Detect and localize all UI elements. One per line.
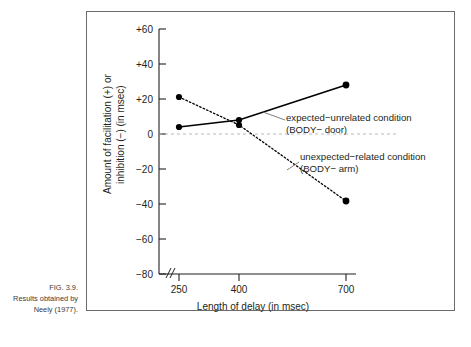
y-axis-tick-labels: +60 +40 +20 0 −20 −40 −60 −80 bbox=[136, 24, 153, 280]
y-axis-ticks bbox=[159, 29, 166, 274]
data-point-unexpected-related-400 bbox=[236, 122, 242, 128]
plot-area: +60 +40 +20 0 −20 −40 −60 −80 Amount of … bbox=[87, 12, 454, 310]
y-axis-title: Amount of facilitation (+) or inhibition… bbox=[102, 74, 126, 194]
line-chart: +60 +40 +20 0 −20 −40 −60 −80 Amount of … bbox=[87, 12, 456, 312]
y-axis-title-line-1: Amount of facilitation (+) or bbox=[102, 74, 113, 194]
annotation-unexpected-related: unexpected−related condition (BODY− arm) bbox=[287, 151, 426, 174]
figure-caption-line-3: Neely (1977). bbox=[0, 304, 78, 315]
y-axis-title-line-2: inhibition (−) (in msec) bbox=[115, 85, 126, 184]
figure-caption-line-1: FIG. 3.9. bbox=[0, 282, 78, 293]
x-tick-label-400: 400 bbox=[231, 284, 248, 295]
annotation-expected-unrelated: expected−unrelated condition (BODY− door… bbox=[263, 112, 412, 135]
y-tick-label-neg40: −40 bbox=[136, 199, 153, 210]
y-tick-label-0: 0 bbox=[147, 129, 153, 140]
data-point-expected-unrelated-250 bbox=[176, 124, 182, 130]
figure-frame: +60 +40 +20 0 −20 −40 −60 −80 Amount of … bbox=[86, 11, 455, 311]
series-unexpected-related bbox=[176, 94, 350, 205]
y-tick-label-neg80: −80 bbox=[136, 269, 153, 280]
annotation-leader-line-expected-unrelated bbox=[263, 112, 285, 120]
annotation-unexpected-related-line-1: unexpected−related condition bbox=[300, 151, 426, 162]
x-axis-tick-labels: 250 400 700 bbox=[171, 284, 355, 295]
y-tick-label-40: +40 bbox=[136, 59, 153, 70]
annotation-expected-unrelated-line-2: (BODY− door) bbox=[286, 124, 347, 135]
x-axis-title: Length of delay (in msec) bbox=[197, 301, 309, 312]
data-point-unexpected-related-700 bbox=[343, 198, 350, 205]
figure-caption: FIG. 3.9. Results obtained by Neely (197… bbox=[0, 282, 78, 316]
figure-caption-line-2: Results obtained by bbox=[0, 293, 78, 304]
y-tick-label-20: +20 bbox=[136, 94, 153, 105]
annotation-expected-unrelated-line-1: expected−unrelated condition bbox=[286, 112, 412, 123]
x-tick-label-700: 700 bbox=[338, 284, 355, 295]
x-axis-ticks bbox=[179, 274, 346, 281]
annotation-unexpected-related-line-2: (BODY− arm) bbox=[300, 163, 358, 174]
x-axis-break-icon bbox=[166, 268, 175, 278]
y-tick-label-60: +60 bbox=[136, 24, 153, 35]
y-tick-label-neg20: −20 bbox=[136, 164, 153, 175]
data-point-expected-unrelated-700 bbox=[343, 82, 350, 89]
x-tick-label-250: 250 bbox=[171, 284, 188, 295]
data-point-unexpected-related-250 bbox=[176, 94, 182, 100]
y-tick-label-neg60: −60 bbox=[136, 234, 153, 245]
